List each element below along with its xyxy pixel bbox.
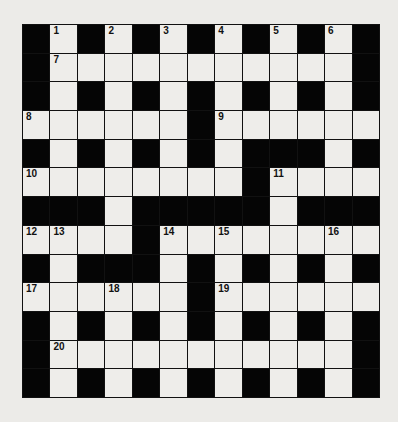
answer-cell[interactable] <box>105 226 131 254</box>
answer-cell[interactable] <box>243 54 269 82</box>
answer-cell[interactable] <box>133 54 159 82</box>
answer-cell[interactable]: 8 <box>23 111 49 139</box>
answer-cell[interactable]: 3 <box>160 25 186 53</box>
answer-cell[interactable] <box>160 369 186 397</box>
answer-cell[interactable] <box>105 82 131 110</box>
answer-cell[interactable]: 16 <box>325 226 351 254</box>
answer-cell[interactable] <box>78 283 104 311</box>
answer-cell[interactable] <box>160 283 186 311</box>
answer-cell[interactable] <box>50 255 76 283</box>
answer-cell[interactable] <box>325 54 351 82</box>
answer-cell[interactable] <box>325 82 351 110</box>
answer-cell[interactable] <box>270 312 296 340</box>
answer-cell[interactable] <box>325 111 351 139</box>
answer-cell[interactable] <box>160 168 186 196</box>
answer-cell[interactable] <box>270 197 296 225</box>
answer-cell[interactable] <box>188 226 214 254</box>
answer-cell[interactable] <box>50 369 76 397</box>
answer-cell[interactable] <box>243 226 269 254</box>
answer-cell[interactable] <box>50 140 76 168</box>
answer-cell[interactable] <box>270 54 296 82</box>
answer-cell[interactable]: 6 <box>325 25 351 53</box>
answer-cell[interactable] <box>133 341 159 369</box>
answer-cell[interactable]: 7 <box>50 54 76 82</box>
answer-cell[interactable]: 2 <box>105 25 131 53</box>
answer-cell[interactable]: 4 <box>215 25 241 53</box>
answer-cell[interactable] <box>188 341 214 369</box>
answer-cell[interactable] <box>325 341 351 369</box>
answer-cell[interactable] <box>133 283 159 311</box>
answer-cell[interactable] <box>298 111 324 139</box>
answer-cell[interactable] <box>298 283 324 311</box>
answer-cell[interactable] <box>160 111 186 139</box>
answer-cell[interactable]: 5 <box>270 25 296 53</box>
answer-cell[interactable] <box>243 341 269 369</box>
answer-cell[interactable] <box>270 226 296 254</box>
answer-cell[interactable] <box>215 341 241 369</box>
answer-cell[interactable]: 14 <box>160 226 186 254</box>
answer-cell[interactable] <box>325 312 351 340</box>
answer-cell[interactable] <box>215 54 241 82</box>
answer-cell[interactable] <box>215 255 241 283</box>
answer-cell[interactable] <box>78 226 104 254</box>
answer-cell[interactable] <box>270 82 296 110</box>
answer-cell[interactable] <box>105 111 131 139</box>
answer-cell[interactable] <box>243 283 269 311</box>
answer-cell[interactable]: 1 <box>50 25 76 53</box>
answer-cell[interactable] <box>50 283 76 311</box>
answer-cell[interactable] <box>50 168 76 196</box>
answer-cell[interactable] <box>353 168 379 196</box>
answer-cell[interactable] <box>78 168 104 196</box>
answer-cell[interactable] <box>270 369 296 397</box>
answer-cell[interactable] <box>105 140 131 168</box>
answer-cell[interactable]: 20 <box>50 341 76 369</box>
answer-cell[interactable] <box>50 312 76 340</box>
answer-cell[interactable] <box>215 369 241 397</box>
answer-cell[interactable] <box>270 111 296 139</box>
answer-cell[interactable] <box>105 312 131 340</box>
answer-cell[interactable] <box>188 54 214 82</box>
answer-cell[interactable] <box>160 341 186 369</box>
answer-cell[interactable] <box>160 255 186 283</box>
answer-cell[interactable] <box>160 140 186 168</box>
answer-cell[interactable] <box>325 283 351 311</box>
answer-cell[interactable] <box>325 369 351 397</box>
answer-cell[interactable] <box>215 312 241 340</box>
answer-cell[interactable] <box>298 54 324 82</box>
answer-cell[interactable] <box>50 111 76 139</box>
answer-cell[interactable] <box>105 369 131 397</box>
answer-cell[interactable] <box>160 54 186 82</box>
answer-cell[interactable] <box>78 341 104 369</box>
answer-cell[interactable]: 10 <box>23 168 49 196</box>
answer-cell[interactable]: 18 <box>105 283 131 311</box>
answer-cell[interactable] <box>298 226 324 254</box>
answer-cell[interactable] <box>105 197 131 225</box>
answer-cell[interactable] <box>105 168 131 196</box>
answer-cell[interactable] <box>325 168 351 196</box>
answer-cell[interactable] <box>298 341 324 369</box>
answer-cell[interactable] <box>270 341 296 369</box>
answer-cell[interactable]: 12 <box>23 226 49 254</box>
answer-cell[interactable]: 13 <box>50 226 76 254</box>
answer-cell[interactable] <box>325 255 351 283</box>
answer-cell[interactable] <box>353 283 379 311</box>
answer-cell[interactable] <box>353 226 379 254</box>
answer-cell[interactable]: 19 <box>215 283 241 311</box>
answer-cell[interactable] <box>105 341 131 369</box>
answer-cell[interactable] <box>215 140 241 168</box>
answer-cell[interactable] <box>133 168 159 196</box>
answer-cell[interactable] <box>325 140 351 168</box>
answer-cell[interactable] <box>270 255 296 283</box>
answer-cell[interactable] <box>215 82 241 110</box>
answer-cell[interactable] <box>215 168 241 196</box>
answer-cell[interactable] <box>188 168 214 196</box>
answer-cell[interactable]: 17 <box>23 283 49 311</box>
answer-cell[interactable] <box>133 111 159 139</box>
answer-cell[interactable] <box>270 283 296 311</box>
answer-cell[interactable] <box>160 82 186 110</box>
answer-cell[interactable]: 15 <box>215 226 241 254</box>
answer-cell[interactable] <box>50 82 76 110</box>
answer-cell[interactable]: 11 <box>270 168 296 196</box>
answer-cell[interactable] <box>78 111 104 139</box>
answer-cell[interactable] <box>78 54 104 82</box>
